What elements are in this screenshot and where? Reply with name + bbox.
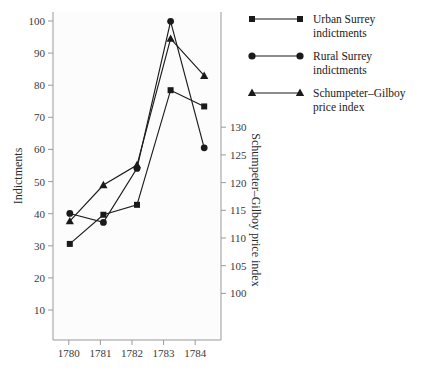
circle-marker-icon bbox=[201, 144, 208, 151]
x-tick-label: 1780 bbox=[58, 347, 81, 359]
square-marker-icon bbox=[100, 212, 106, 218]
circle-marker-icon bbox=[296, 52, 303, 59]
x-tick-label: 1783 bbox=[153, 347, 176, 359]
x-tick-label: 1781 bbox=[89, 347, 111, 359]
line-chart: 100 90 80 70 60 50 40 30 20 10 130 bbox=[0, 0, 433, 380]
y-tick-label: 100 bbox=[29, 15, 46, 27]
y2-tick-label: 120 bbox=[230, 177, 247, 189]
plot-area-background bbox=[53, 12, 221, 340]
square-marker-icon bbox=[249, 16, 255, 22]
x-tick-label: 1784 bbox=[184, 347, 207, 359]
y2-axis-title: Schumpeter–Gilboy price index bbox=[249, 133, 263, 286]
y-tick-label: 40 bbox=[34, 208, 46, 220]
square-marker-icon bbox=[134, 202, 140, 208]
y-tick-label: 90 bbox=[34, 47, 46, 59]
square-marker-icon bbox=[67, 241, 73, 247]
y2-tick-label: 105 bbox=[230, 260, 247, 272]
legend-label-line1: Schumpeter–Gilboy bbox=[313, 87, 406, 100]
y-tick-label: 50 bbox=[34, 176, 46, 188]
y2-tick-label: 110 bbox=[230, 232, 247, 244]
y-tick-label: 80 bbox=[34, 79, 46, 91]
y-tick-label: 30 bbox=[34, 240, 46, 252]
y-tick-label: 70 bbox=[34, 111, 46, 123]
legend-label-line2: indictments bbox=[313, 27, 367, 39]
y2-tick-label: 125 bbox=[230, 149, 247, 161]
legend-label-line2: indictments bbox=[313, 64, 367, 76]
square-marker-icon bbox=[297, 16, 303, 22]
y2-tick-label: 100 bbox=[230, 287, 247, 299]
y-tick-label: 60 bbox=[34, 143, 46, 155]
y2-tick-label: 115 bbox=[230, 204, 247, 216]
circle-marker-icon bbox=[66, 210, 73, 217]
legend-label-line1: Urban Surrey bbox=[313, 13, 376, 26]
circle-marker-icon bbox=[167, 18, 174, 25]
square-marker-icon bbox=[201, 103, 207, 109]
x-tick-label: 1782 bbox=[121, 347, 143, 359]
y2-tick-label: 130 bbox=[230, 121, 247, 133]
legend-label-line1: Rural Surrey bbox=[313, 50, 372, 63]
chart-figure: 100 90 80 70 60 50 40 30 20 10 130 bbox=[0, 0, 433, 380]
circle-marker-icon bbox=[248, 52, 255, 59]
legend-label-line2: price index bbox=[313, 101, 365, 114]
y-tick-label: 20 bbox=[34, 272, 46, 284]
circle-marker-icon bbox=[100, 219, 107, 226]
y-tick-label: 10 bbox=[34, 304, 46, 316]
square-marker-icon bbox=[168, 87, 174, 93]
y-axis-title: Indictments bbox=[11, 147, 25, 204]
